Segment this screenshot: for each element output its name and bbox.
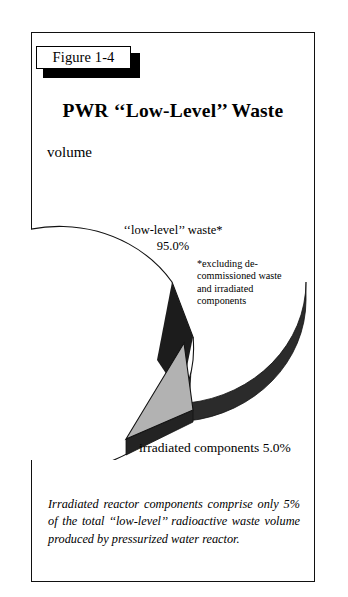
pie-label-wedge-slice: irradiated components 5.0% (139, 440, 291, 456)
figure-caption: Irradiated reactor components comprise o… (48, 496, 300, 548)
figure-page: Figure 1-4 PWR ‘‘Low-Level’’ Waste volum… (0, 0, 348, 597)
figure-number-label: Figure 1-4 (53, 50, 115, 65)
pie-label-main-slice: ‘‘low-level’’ waste* 95.0% (31, 222, 315, 254)
pie-chart-graphic (31, 160, 315, 460)
chart-axis-label-volume: volume (47, 144, 92, 161)
chart-title: PWR ‘‘Low-Level’’ Waste (31, 100, 315, 122)
figure-number-tag-box: Figure 1-4 (36, 46, 131, 69)
pie-footnote-annotation: *excluding de- commissioned waste and ir… (197, 258, 301, 308)
figure-number-tag: Figure 1-4 (36, 46, 140, 78)
